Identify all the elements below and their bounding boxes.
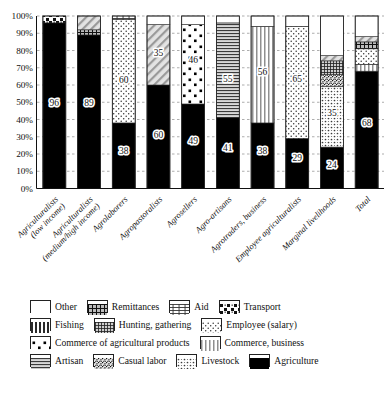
legend-swatch-icon bbox=[249, 354, 270, 367]
bar-segment bbox=[216, 23, 239, 118]
y-tick-label: 0% bbox=[21, 184, 34, 194]
bar-column bbox=[182, 16, 205, 189]
y-tick-label: 80% bbox=[16, 46, 33, 56]
legend-item[interactable]: Artisan bbox=[30, 354, 83, 367]
bar-segment bbox=[78, 35, 101, 189]
y-tick-label: 20% bbox=[16, 149, 33, 159]
legend-item[interactable]: Agriculture bbox=[249, 354, 318, 367]
legend-label: Artisan bbox=[55, 355, 83, 366]
bar-value-label: 56 bbox=[258, 67, 268, 77]
bar-column bbox=[112, 16, 135, 189]
x-axis-label-line: Total bbox=[353, 194, 373, 214]
y-tick-label: 60% bbox=[16, 80, 33, 90]
legend-swatch-icon bbox=[30, 318, 51, 331]
x-axis-labels: Agriculturalists(low income)Agricultural… bbox=[14, 194, 373, 265]
bar-segment bbox=[112, 19, 135, 123]
y-tick-label: 90% bbox=[16, 28, 33, 38]
legend-item[interactable]: Hunting, gathering bbox=[94, 318, 191, 331]
bar-column bbox=[147, 16, 170, 189]
legend-item[interactable]: Casual labor bbox=[93, 354, 166, 367]
bar-value-label: 38 bbox=[258, 146, 268, 156]
legend-label: Other bbox=[55, 301, 77, 312]
bar-segment bbox=[320, 16, 343, 56]
bar-segment bbox=[320, 56, 343, 61]
bar-segment bbox=[355, 42, 378, 49]
bar-column bbox=[355, 16, 378, 189]
bar-segment bbox=[320, 75, 343, 87]
legend-swatch-icon bbox=[219, 300, 240, 313]
legend-item[interactable]: Other bbox=[30, 300, 77, 313]
bar-value-label: 60 bbox=[154, 130, 164, 140]
bar-segment bbox=[182, 16, 205, 25]
legend-item[interactable]: Aid bbox=[169, 300, 208, 313]
legend-label: Commerce, business bbox=[225, 337, 304, 348]
bar-segment bbox=[216, 118, 239, 189]
legend-label: Casual labor bbox=[118, 355, 166, 366]
legend-label: Agriculture bbox=[274, 355, 318, 366]
legend-label: Remittances bbox=[112, 301, 159, 312]
legend-item[interactable]: Transport bbox=[219, 300, 281, 313]
legend-label: Aid bbox=[194, 301, 208, 312]
legend-swatch-icon bbox=[87, 300, 108, 313]
bar-value-label: 35 bbox=[154, 48, 164, 58]
bar-value-label: 68 bbox=[362, 118, 372, 128]
legend-swatch-icon bbox=[30, 354, 51, 367]
bar-segment bbox=[43, 16, 66, 23]
bar-value-label: 55 bbox=[223, 74, 233, 84]
bar-segment bbox=[355, 71, 378, 188]
bar-value-label: 49 bbox=[188, 136, 198, 146]
legend-item[interactable]: Commerce, business bbox=[200, 336, 304, 349]
bar-value-label: 35 bbox=[327, 108, 337, 118]
legend-item[interactable]: Commerce of agricultural products bbox=[30, 336, 190, 349]
x-axis-label-line: Employee agriculturalists bbox=[232, 194, 303, 265]
legend-row: FishingHunting, gatheringEmployee (salar… bbox=[30, 318, 382, 331]
y-axis-ticks: 0%10%20%30%40%50%60%70%80%90%100% bbox=[12, 11, 34, 194]
bar-segment bbox=[216, 16, 239, 23]
legend-swatch-icon bbox=[30, 336, 51, 349]
legend-label: Hunting, gathering bbox=[119, 319, 191, 330]
legend-label: Commerce of agricultural products bbox=[55, 337, 190, 348]
stacked-bar-chart: 0%10%20%30%40%50%60%70%80%90%100% 969689… bbox=[0, 0, 392, 300]
legend-item[interactable]: Fishing bbox=[30, 318, 84, 331]
bar-segment bbox=[182, 104, 205, 189]
bar-value-label: 29 bbox=[293, 153, 303, 163]
y-tick-label: 40% bbox=[16, 115, 33, 125]
x-axis-label-line: Agrosellers bbox=[163, 194, 199, 230]
legend-label: Livestock bbox=[201, 355, 239, 366]
y-tick-label: 30% bbox=[16, 132, 33, 142]
bar-value-label: 38 bbox=[119, 146, 129, 156]
bar-segment bbox=[147, 16, 170, 25]
y-tick-label: 50% bbox=[16, 97, 33, 107]
legend-row: Commerce of agricultural productsCommerc… bbox=[30, 336, 382, 349]
bar-value-label: 41 bbox=[223, 143, 233, 153]
bar-value-label: 24 bbox=[327, 160, 337, 170]
legend-swatch-icon bbox=[169, 300, 190, 313]
legend-item[interactable]: Employee (salary) bbox=[201, 318, 297, 331]
bar-segment bbox=[112, 16, 135, 19]
legend-row: OtherRemittancesAidTransport bbox=[30, 300, 382, 313]
bar-segment bbox=[355, 49, 378, 65]
bar-segment bbox=[355, 37, 378, 42]
x-axis-label: Agrosellers bbox=[163, 194, 199, 230]
y-tick-label: 70% bbox=[16, 63, 33, 73]
bar-segment bbox=[355, 64, 378, 71]
bar-value-label: 46 bbox=[188, 55, 198, 65]
legend-label: Transport bbox=[244, 301, 281, 312]
bar-segment bbox=[355, 16, 378, 37]
bar-column bbox=[251, 16, 274, 189]
bar-segment bbox=[78, 16, 101, 30]
legend-swatch-icon bbox=[30, 300, 51, 313]
legend-swatch-icon bbox=[200, 336, 221, 349]
legend-label: Fishing bbox=[55, 319, 84, 330]
legend-swatch-icon bbox=[176, 354, 197, 367]
bar-column bbox=[216, 16, 239, 189]
x-axis-label: Employee agriculturalists bbox=[232, 194, 303, 265]
bar-value-label: 89 bbox=[84, 98, 94, 108]
legend-label: Employee (salary) bbox=[226, 319, 297, 330]
legend-item[interactable]: Remittances bbox=[87, 300, 159, 313]
bar-segment bbox=[286, 138, 309, 188]
legend-row: ArtisanCasual laborLivestockAgriculture bbox=[30, 354, 382, 367]
legend-swatch-icon bbox=[93, 354, 114, 367]
bar-value-label: 96 bbox=[50, 98, 60, 108]
legend-item[interactable]: Livestock bbox=[176, 354, 239, 367]
